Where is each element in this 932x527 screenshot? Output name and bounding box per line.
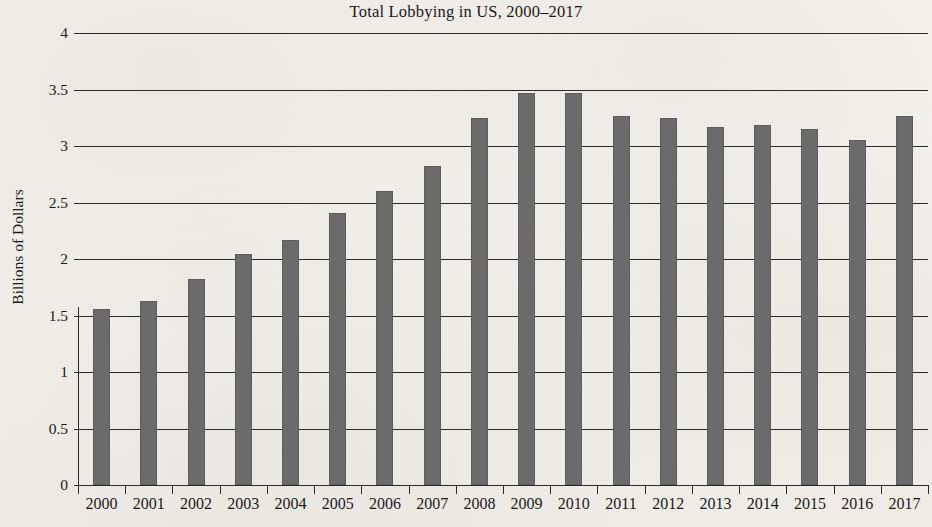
x-axis-tick-mark bbox=[550, 485, 551, 494]
plot-area bbox=[78, 33, 928, 485]
bar bbox=[140, 301, 157, 485]
x-axis-tick-mark bbox=[456, 485, 457, 494]
x-axis-tick-mark bbox=[78, 485, 79, 494]
bar bbox=[329, 213, 346, 485]
bar bbox=[235, 254, 252, 485]
x-axis-tick-mark bbox=[361, 485, 362, 494]
y-axis-tick-label: 0 bbox=[24, 477, 68, 493]
y-axis-tick-label: 1.5 bbox=[24, 308, 68, 324]
y-axis-tick-label: 0.5 bbox=[24, 421, 68, 437]
bar bbox=[282, 240, 299, 485]
bar bbox=[376, 191, 393, 485]
bar bbox=[896, 116, 913, 486]
bar bbox=[518, 93, 535, 485]
bar bbox=[754, 125, 771, 485]
bar-chart: Total Lobbying in US, 2000–2017 Billions… bbox=[0, 0, 932, 527]
x-axis-tick-mark bbox=[125, 485, 126, 494]
x-axis-tick-mark bbox=[928, 485, 929, 494]
bar bbox=[849, 140, 866, 485]
x-axis-tick-mark bbox=[409, 485, 410, 494]
x-axis-tick-mark bbox=[597, 485, 598, 494]
y-axis-tick-label: 2 bbox=[24, 251, 68, 267]
y-axis-tick-label: 4 bbox=[24, 25, 68, 41]
y-axis-tick-label: 3.5 bbox=[24, 82, 68, 98]
x-axis-tick-mark bbox=[220, 485, 221, 494]
x-axis-tick-mark bbox=[314, 485, 315, 494]
bar bbox=[707, 127, 724, 485]
y-axis-line bbox=[78, 307, 79, 486]
y-axis-tick-labels: 00.511.522.533.54 bbox=[12, 33, 68, 485]
x-axis-tick-mark bbox=[503, 485, 504, 494]
bar bbox=[801, 129, 818, 485]
x-axis-tick-mark bbox=[881, 485, 882, 494]
x-axis-tick-mark bbox=[172, 485, 173, 494]
y-axis-tick-label: 1 bbox=[24, 364, 68, 380]
bar bbox=[424, 166, 441, 485]
x-axis-tick-mark bbox=[267, 485, 268, 494]
chart-title: Total Lobbying in US, 2000–2017 bbox=[0, 2, 932, 22]
x-axis-tick-label: 2017 bbox=[874, 496, 932, 512]
y-axis-tick-label: 2.5 bbox=[24, 195, 68, 211]
bar bbox=[660, 118, 677, 485]
y-axis-tick-label: 3 bbox=[24, 138, 68, 154]
gridline bbox=[78, 33, 928, 34]
bar bbox=[565, 93, 582, 485]
x-axis-tick-mark bbox=[834, 485, 835, 494]
x-axis-tick-mark bbox=[645, 485, 646, 494]
bar bbox=[188, 279, 205, 485]
bar bbox=[613, 116, 630, 486]
x-axis-tick-mark bbox=[739, 485, 740, 494]
x-axis-tick-mark bbox=[692, 485, 693, 494]
bar bbox=[471, 118, 488, 485]
bar bbox=[93, 309, 110, 485]
gridline bbox=[78, 90, 928, 91]
x-axis-tick-mark bbox=[786, 485, 787, 494]
